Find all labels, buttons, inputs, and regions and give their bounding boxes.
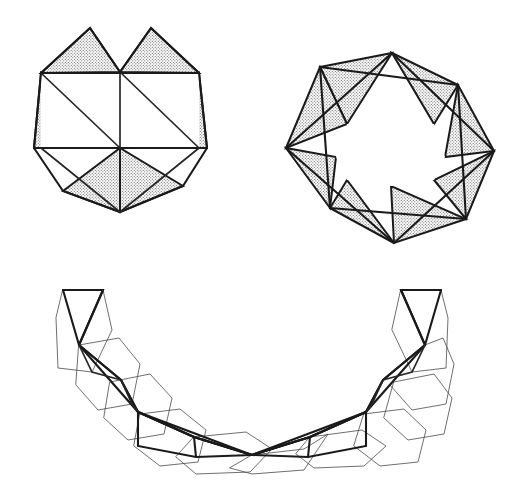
star-inner-octagon-face: [336, 124, 445, 186]
geometric-figures-plate: [0, 0, 526, 501]
